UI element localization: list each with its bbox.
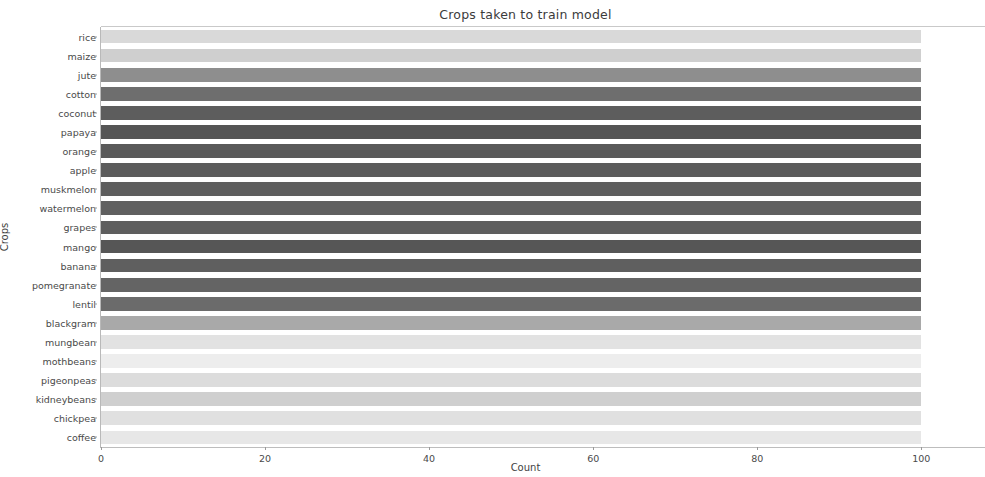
bar[interactable] xyxy=(101,106,921,120)
plot-area xyxy=(101,27,950,447)
bar[interactable] xyxy=(101,278,921,292)
y-axis-tick-label: kidneybeans xyxy=(4,394,96,405)
bar-row xyxy=(101,431,950,445)
y-axis-tick-label: coconut xyxy=(4,107,96,118)
y-axis-tick-label: jute xyxy=(4,69,96,80)
bar-row xyxy=(101,87,950,101)
bar-row xyxy=(101,49,950,63)
y-axis-tick-label: banana xyxy=(4,260,96,271)
bar-row xyxy=(101,106,950,120)
bar[interactable] xyxy=(101,316,921,330)
y-axis-tick-label: muskmelon xyxy=(4,184,96,195)
y-axis-tick-mark xyxy=(94,208,97,209)
y-axis-tick-label: pomegranate xyxy=(4,279,96,290)
y-axis-tick-label: watermelon xyxy=(4,203,96,214)
bar[interactable] xyxy=(101,125,921,139)
y-axis-tick-mark xyxy=(94,227,97,228)
y-axis-tick-mark xyxy=(94,36,97,37)
y-axis-tick-mark xyxy=(94,74,97,75)
bar-row xyxy=(101,411,950,425)
y-axis-tick-mark xyxy=(94,399,97,400)
bar[interactable] xyxy=(101,431,921,445)
y-axis-tick-label: pigeonpeas xyxy=(4,375,96,386)
bar[interactable] xyxy=(101,335,921,349)
chart-title: Crops taken to train model xyxy=(101,7,950,22)
y-axis-tick-mark xyxy=(94,55,97,56)
bar-row xyxy=(101,182,950,196)
y-axis-label: Crops xyxy=(0,223,10,252)
bar[interactable] xyxy=(101,87,921,101)
bar-row xyxy=(101,316,950,330)
y-axis-tick-label: grapes xyxy=(4,222,96,233)
y-axis-tick-label: mothbeans xyxy=(4,356,96,367)
bar-row xyxy=(101,278,950,292)
bar[interactable] xyxy=(101,163,921,177)
y-axis-tick-label: chickpea xyxy=(4,413,96,424)
y-axis-tick-labels: ricemaizejutecottoncoconutpapayaorangeap… xyxy=(0,27,96,447)
y-axis-tick-mark xyxy=(94,246,97,247)
y-axis-tick-mark xyxy=(94,437,97,438)
x-axis-tick-mark xyxy=(265,447,266,450)
y-axis-tick-mark xyxy=(94,170,97,171)
y-axis-tick-label: blackgram xyxy=(4,317,96,328)
y-axis-tick-mark xyxy=(94,303,97,304)
y-axis-tick-mark xyxy=(94,284,97,285)
y-axis-tick-label: lentil xyxy=(4,298,96,309)
y-axis-tick-label: coffee xyxy=(4,432,96,443)
bar-row xyxy=(101,335,950,349)
bar-row xyxy=(101,354,950,368)
bar-row xyxy=(101,125,950,139)
y-axis-tick-label: orange xyxy=(4,146,96,157)
y-axis-tick-mark xyxy=(94,322,97,323)
bar[interactable] xyxy=(101,49,921,63)
x-axis-tick-mark xyxy=(757,447,758,450)
bar[interactable] xyxy=(101,30,921,44)
y-axis-tick-label: cotton xyxy=(4,88,96,99)
bar-row xyxy=(101,240,950,254)
bar-chart-figure: Crops taken to train model ricemaizejute… xyxy=(0,0,985,477)
bar[interactable] xyxy=(101,182,921,196)
x-axis-label: Count xyxy=(101,462,950,473)
bar[interactable] xyxy=(101,201,921,215)
bar[interactable] xyxy=(101,68,921,82)
bar-row xyxy=(101,221,950,235)
bar[interactable] xyxy=(101,221,921,235)
bar-row xyxy=(101,392,950,406)
y-axis-tick-label: maize xyxy=(4,50,96,61)
bar[interactable] xyxy=(101,297,921,311)
bar-row xyxy=(101,373,950,387)
y-axis-tick-mark xyxy=(94,132,97,133)
bar-row xyxy=(101,259,950,273)
x-axis-tick-mark xyxy=(101,447,102,450)
bar[interactable] xyxy=(101,144,921,158)
y-axis-tick-mark xyxy=(94,342,97,343)
y-axis-tick-mark xyxy=(94,93,97,94)
bar-row xyxy=(101,201,950,215)
bar-row xyxy=(101,297,950,311)
bar[interactable] xyxy=(101,392,921,406)
y-axis-tick-mark xyxy=(94,361,97,362)
y-axis-tick-label: apple xyxy=(4,165,96,176)
bar-row xyxy=(101,30,950,44)
x-axis-tick-mark xyxy=(921,447,922,450)
bar[interactable] xyxy=(101,354,921,368)
y-axis-tick-mark xyxy=(94,189,97,190)
bar-row xyxy=(101,163,950,177)
bar-row xyxy=(101,144,950,158)
y-axis-tick-mark xyxy=(94,418,97,419)
x-axis-tick-mark xyxy=(593,447,594,450)
y-axis-tick-mark xyxy=(94,380,97,381)
bar[interactable] xyxy=(101,240,921,254)
y-axis-tick-label: mungbean xyxy=(4,337,96,348)
y-axis-tick-label: mango xyxy=(4,241,96,252)
bar[interactable] xyxy=(101,373,921,387)
x-axis-tick-mark xyxy=(429,447,430,450)
y-axis-tick-mark xyxy=(94,112,97,113)
y-axis-tick-mark xyxy=(94,265,97,266)
y-axis-tick-label: rice xyxy=(4,31,96,42)
y-axis-tick-label: papaya xyxy=(4,127,96,138)
bar[interactable] xyxy=(101,411,921,425)
bar[interactable] xyxy=(101,259,921,273)
y-axis-tick-mark xyxy=(94,151,97,152)
bar-row xyxy=(101,68,950,82)
